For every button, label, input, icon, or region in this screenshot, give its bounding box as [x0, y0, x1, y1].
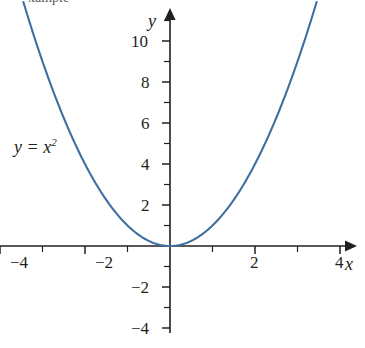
- x-axis-label: x: [345, 255, 353, 273]
- y-tick-label-10: 10: [131, 33, 148, 50]
- y-tick-label-4: 4: [141, 156, 150, 173]
- plot-canvas: [0, 0, 365, 348]
- x-axis-arrowhead: [345, 240, 357, 251]
- curve-equation-base: y = x: [14, 137, 51, 157]
- curve-equation-label: y = x2: [14, 138, 57, 156]
- x-tick-label-4: 4: [335, 254, 344, 271]
- x-tick-label-minus2: −2: [95, 254, 113, 271]
- curve-equation-exponent: 2: [51, 136, 57, 148]
- y-axis-arrowhead: [164, 8, 175, 20]
- y-tick-label-6: 6: [141, 115, 150, 132]
- x-tick-label-2: 2: [250, 254, 259, 271]
- y-tick-label-8: 8: [141, 74, 150, 91]
- y-axis-group: [162, 8, 176, 333]
- y-tick-label-minus4: −4: [131, 320, 149, 337]
- y-tick-label-2: 2: [141, 197, 150, 214]
- y-tick-label-minus2: −2: [131, 279, 149, 296]
- y-axis-label: y: [148, 12, 156, 30]
- x-tick-label-minus4: −4: [10, 254, 28, 271]
- x-axis-group: [0, 240, 357, 254]
- graph-figure: xample: [0, 0, 365, 348]
